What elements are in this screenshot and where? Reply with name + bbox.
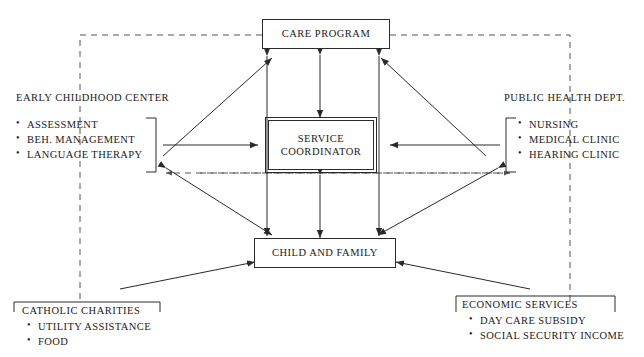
group-early-childhood-center[interactable]: EARLY CHILDHOOD CENTER ASSESSMENT BEH. M… [16, 92, 169, 163]
node-child-and-family-label: CHILD AND FAMILY [272, 246, 378, 259]
group-public-health-dept-list: NURSING MEDICAL CLINIC HEARING CLINIC [504, 117, 625, 163]
list-item: ASSESSMENT [16, 117, 169, 132]
list-item: SOCIAL SECURITY INCOME [469, 328, 624, 343]
list-item: NURSING [518, 117, 625, 132]
group-economic-services[interactable]: ECONOMIC SERVICES DAY CARE SUBSIDY SOCIA… [462, 299, 624, 343]
group-early-childhood-center-list: ASSESSMENT BEH. MANAGEMENT LANGUAGE THER… [16, 117, 169, 163]
arrow-early-childhood-to-child [166, 168, 272, 235]
node-child-and-family[interactable]: CHILD AND FAMILY [254, 238, 396, 268]
dashed-perimeter-left [80, 35, 262, 302]
arrow-early-childhood-to-care [163, 58, 272, 156]
group-catholic-charities[interactable]: CATHOLIC CHARITIES UTILITY ASSISTANCE FO… [22, 305, 151, 349]
group-public-health-dept[interactable]: PUBLIC HEALTH DEPT. NURSING MEDICAL CLIN… [504, 92, 625, 163]
diagram-canvas: CARE PROGRAM SERVICE COORDINATOR CHILD A… [0, 0, 644, 357]
node-service-coordinator-label-line2: COORDINATOR [281, 145, 362, 158]
list-item: HEARING CLINIC [518, 147, 625, 162]
list-item: FOOD [27, 334, 151, 349]
group-catholic-charities-list: UTILITY ASSISTANCE FOOD [22, 319, 151, 349]
arrow-public-health-to-child [378, 168, 498, 235]
arrow-catholic-charities-to-child [120, 262, 255, 289]
group-catholic-charities-header: CATHOLIC CHARITIES [22, 305, 151, 316]
list-item: BEH. MANAGEMENT [16, 132, 169, 147]
group-economic-services-list: DAY CARE SUBSIDY SOCIAL SECURITY INCOME [462, 313, 624, 343]
node-service-coordinator-label-line1: SERVICE [298, 132, 344, 145]
list-item: MEDICAL CLINIC [518, 132, 625, 147]
list-item: LANGUAGE THERAPY [16, 147, 169, 162]
group-early-childhood-center-header: EARLY CHILDHOOD CENTER [16, 92, 169, 103]
list-item: DAY CARE SUBSIDY [469, 313, 624, 328]
node-service-coordinator[interactable]: SERVICE COORDINATOR [268, 120, 374, 170]
dashed-perimeter-right [390, 35, 570, 302]
group-public-health-dept-header: PUBLIC HEALTH DEPT. [504, 92, 625, 103]
group-economic-services-header: ECONOMIC SERVICES [462, 299, 624, 310]
node-care-program-label: CARE PROGRAM [282, 27, 371, 40]
arrow-economic-services-to-child [396, 262, 530, 289]
list-item: UTILITY ASSISTANCE [27, 319, 151, 334]
arrow-public-health-to-care [381, 58, 486, 156]
node-care-program[interactable]: CARE PROGRAM [262, 19, 390, 49]
